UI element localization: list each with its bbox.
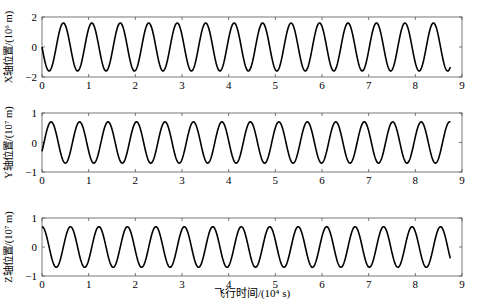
x-tick-label: 9 xyxy=(459,278,465,290)
axes-box xyxy=(42,113,462,172)
y-tick-label: −1 xyxy=(25,166,37,178)
y-axis-label: Y轴位置/(10⁷ m) xyxy=(2,106,15,179)
x-tick-label: 7 xyxy=(366,79,372,91)
x-tick-label: 3 xyxy=(179,79,185,91)
x-tick-label: 3 xyxy=(179,174,185,186)
x-tick-label: 5 xyxy=(273,79,279,91)
y-tick-label: 0 xyxy=(32,41,38,53)
y-tick-label: −1 xyxy=(25,270,37,282)
x-tick-label: 4 xyxy=(226,174,232,186)
x-tick-label: 2 xyxy=(133,79,139,91)
x-tick-label: 9 xyxy=(459,79,465,91)
x-tick-label: 3 xyxy=(179,278,185,290)
y-tick-label: 2 xyxy=(32,11,38,23)
y-axis-label: X轴位置/(10⁶ m) xyxy=(2,10,15,83)
x-axis-label: 飞行时间/(10⁴ s) xyxy=(214,287,291,300)
x-tick-label: 2 xyxy=(133,278,139,290)
axes-box xyxy=(42,17,462,77)
x-tick-label: 5 xyxy=(273,174,279,186)
x-tick-label: 0 xyxy=(39,174,45,186)
y-tick-label: 1 xyxy=(32,212,38,224)
series-line-z xyxy=(42,227,450,268)
x-tick-label: 7 xyxy=(366,278,372,290)
x-tick-label: 8 xyxy=(413,174,419,186)
subplot-z: 012345678910−1Z轴位置/(10⁷ m) xyxy=(2,211,465,290)
x-tick-label: 6 xyxy=(319,79,325,91)
y-tick-label: 1 xyxy=(32,107,38,119)
x-tick-label: 6 xyxy=(319,174,325,186)
x-tick-label: 1 xyxy=(86,278,92,290)
x-tick-label: 1 xyxy=(86,79,92,91)
subplot-x: 012345678920−2X轴位置/(10⁶ m) xyxy=(2,10,465,91)
x-tick-label: 9 xyxy=(459,174,465,186)
y-tick-label: −2 xyxy=(25,71,37,83)
y-axis-label: Z轴位置/(10⁷ m) xyxy=(2,211,15,283)
x-tick-label: 1 xyxy=(86,174,92,186)
x-tick-label: 8 xyxy=(413,79,419,91)
y-tick-label: 0 xyxy=(32,241,38,253)
x-tick-label: 7 xyxy=(366,174,372,186)
subplot-y: 012345678910−1Y轴位置/(10⁷ m) xyxy=(2,106,465,186)
figure: 012345678920−2X轴位置/(10⁶ m)012345678910−1… xyxy=(0,0,477,304)
x-tick-label: 0 xyxy=(39,278,45,290)
y-tick-label: 0 xyxy=(32,137,38,149)
x-tick-label: 2 xyxy=(133,174,139,186)
x-tick-label: 0 xyxy=(39,79,45,91)
x-tick-label: 8 xyxy=(413,278,419,290)
series-line-y xyxy=(42,122,450,163)
x-tick-label: 4 xyxy=(226,79,232,91)
x-tick-label: 6 xyxy=(319,278,325,290)
series-line-x xyxy=(42,23,450,71)
